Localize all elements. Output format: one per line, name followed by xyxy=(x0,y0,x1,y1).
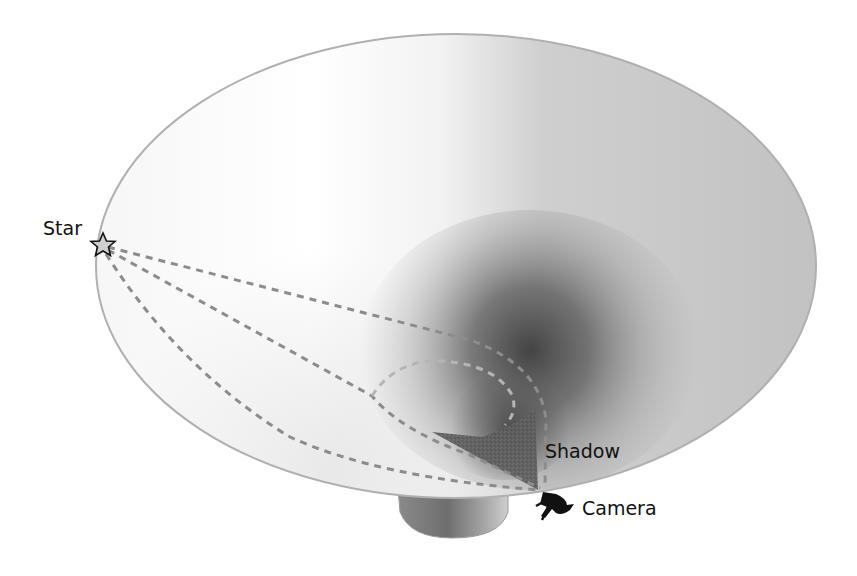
camera-icon xyxy=(536,492,574,520)
star-label: Star xyxy=(43,217,82,239)
shadow-label: Shadow xyxy=(545,440,620,462)
camera-label: Camera xyxy=(582,497,657,519)
funnel-diagram: Star Shadow Camera xyxy=(0,0,857,576)
funnel-dish xyxy=(96,34,816,498)
